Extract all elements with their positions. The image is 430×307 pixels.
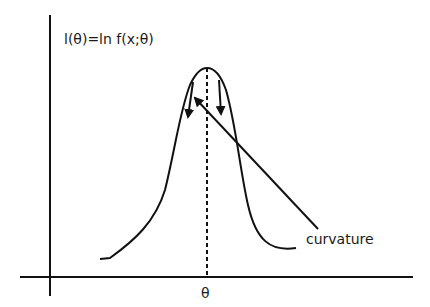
log-likelihood-curve [100, 68, 296, 259]
x-axis-label: θ [201, 285, 210, 301]
curvature-pointer-arrow [195, 98, 318, 229]
y-axis-label: l(θ)=ln f(x;θ) [64, 31, 154, 47]
right-curvature-arrow [219, 80, 221, 114]
likelihood-diagram: l(θ)=ln f(x;θ) θ curvature [0, 0, 430, 307]
curvature-label: curvature [306, 231, 374, 247]
